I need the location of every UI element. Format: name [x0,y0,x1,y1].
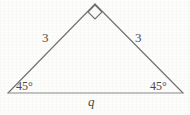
triangle-figure: 3 3 45° 45° q [0,0,190,115]
left-leg-length-label: 3 [42,31,49,44]
right-angle-marker-icon [88,5,102,19]
base-length-label: q [88,95,95,108]
triangle-diagram-svg [0,0,190,115]
triangle-right-leg [95,4,183,93]
right-base-angle-label: 45° [150,80,167,92]
right-leg-length-label: 3 [135,31,142,44]
left-base-angle-label: 45° [16,80,33,92]
